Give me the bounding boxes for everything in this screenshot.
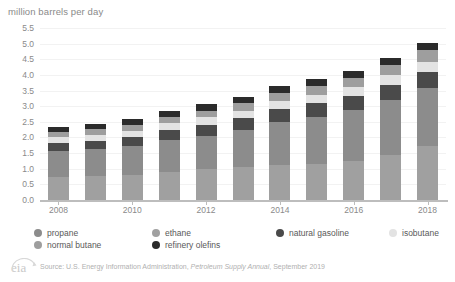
bar-segment-propane[interactable] bbox=[269, 122, 290, 165]
bar-segment-natural-gasoline[interactable] bbox=[343, 96, 364, 110]
bar-segment-propane[interactable] bbox=[380, 100, 401, 155]
bar-segment-isobutane[interactable] bbox=[380, 75, 401, 84]
bar-segment-natural-gasoline[interactable] bbox=[122, 137, 143, 146]
bar-2016[interactable] bbox=[343, 28, 364, 200]
bar-2009[interactable] bbox=[85, 28, 106, 200]
bar-segment-natural-gasoline[interactable] bbox=[196, 125, 217, 136]
legend-label: refinery olefins bbox=[165, 240, 220, 250]
bar-segment-propane[interactable] bbox=[122, 146, 143, 175]
bar-segment-isobutane[interactable] bbox=[159, 123, 180, 130]
plot-area bbox=[40, 28, 446, 200]
y-tick-label: 5.5 bbox=[22, 23, 34, 33]
bar-segment-ethane[interactable] bbox=[269, 165, 290, 200]
x-tick-label-2010: 2010 bbox=[123, 205, 142, 215]
bar-segment-natural-gasoline[interactable] bbox=[48, 143, 69, 151]
bar-segment-ethane[interactable] bbox=[122, 175, 143, 200]
bar-segment-refinery-olefins[interactable] bbox=[196, 104, 217, 110]
legend-item-refinery-olefins[interactable]: refinery olefins bbox=[152, 240, 220, 250]
bar-2008[interactable] bbox=[48, 28, 69, 200]
bar-2010[interactable] bbox=[122, 28, 143, 200]
bar-segment-ethane[interactable] bbox=[85, 176, 106, 200]
bar-segment-isobutane[interactable] bbox=[343, 87, 364, 96]
legend-item-ethane[interactable]: ethane bbox=[152, 228, 191, 238]
bar-2013[interactable] bbox=[233, 28, 254, 200]
bar-segment-normal-butane[interactable] bbox=[269, 93, 290, 101]
y-tick-label: 4.0 bbox=[22, 70, 34, 80]
bar-segment-natural-gasoline[interactable] bbox=[417, 72, 438, 88]
bar-segment-natural-gasoline[interactable] bbox=[380, 85, 401, 100]
bar-segment-refinery-olefins[interactable] bbox=[306, 79, 327, 86]
bar-segment-refinery-olefins[interactable] bbox=[417, 43, 438, 51]
bar-segment-ethane[interactable] bbox=[48, 177, 69, 200]
bar-segment-isobutane[interactable] bbox=[48, 137, 69, 143]
bar-2012[interactable] bbox=[196, 28, 217, 200]
bar-segment-propane[interactable] bbox=[85, 149, 106, 177]
bar-segment-isobutane[interactable] bbox=[306, 95, 327, 103]
bar-segment-propane[interactable] bbox=[196, 136, 217, 170]
bar-segment-ethane[interactable] bbox=[417, 146, 438, 200]
bar-segment-propane[interactable] bbox=[343, 110, 364, 161]
x-tick-label-2018: 2018 bbox=[418, 205, 437, 215]
bar-segment-natural-gasoline[interactable] bbox=[233, 118, 254, 130]
legend-label: natural gasoline bbox=[289, 228, 349, 238]
bar-segment-normal-butane[interactable] bbox=[48, 132, 69, 137]
bar-segment-refinery-olefins[interactable] bbox=[159, 111, 180, 117]
bar-segment-normal-butane[interactable] bbox=[380, 65, 401, 75]
bar-segment-ethane[interactable] bbox=[233, 167, 254, 200]
bar-segment-refinery-olefins[interactable] bbox=[343, 71, 364, 78]
bar-segment-normal-butane[interactable] bbox=[233, 103, 254, 111]
bar-segment-normal-butane[interactable] bbox=[343, 78, 364, 87]
bar-segment-ethane[interactable] bbox=[380, 155, 401, 200]
bar-segment-normal-butane[interactable] bbox=[122, 125, 143, 131]
bar-2018[interactable] bbox=[417, 28, 438, 200]
y-tick-label: 2.5 bbox=[22, 117, 34, 127]
bar-segment-isobutane[interactable] bbox=[233, 111, 254, 119]
legend-label: propane bbox=[47, 228, 78, 238]
bar-segment-ethane[interactable] bbox=[159, 172, 180, 200]
bar-segment-refinery-olefins[interactable] bbox=[380, 58, 401, 65]
bar-segment-propane[interactable] bbox=[48, 151, 69, 178]
bar-segment-natural-gasoline[interactable] bbox=[306, 103, 327, 117]
bar-segment-natural-gasoline[interactable] bbox=[159, 130, 180, 140]
bar-segment-normal-butane[interactable] bbox=[159, 117, 180, 123]
bar-segment-isobutane[interactable] bbox=[269, 101, 290, 109]
bar-segment-propane[interactable] bbox=[417, 88, 438, 146]
legend-item-normal-butane[interactable]: normal butane bbox=[34, 240, 101, 250]
bar-segment-propane[interactable] bbox=[306, 117, 327, 164]
legend-label: isobutane bbox=[402, 228, 439, 238]
bar-2011[interactable] bbox=[159, 28, 180, 200]
y-tick-label: 1.5 bbox=[22, 148, 34, 158]
bar-segment-normal-butane[interactable] bbox=[306, 86, 327, 95]
bar-segment-refinery-olefins[interactable] bbox=[269, 86, 290, 93]
legend-item-propane[interactable]: propane bbox=[34, 228, 78, 238]
bar-segment-propane[interactable] bbox=[233, 130, 254, 167]
bar-segment-natural-gasoline[interactable] bbox=[85, 141, 106, 149]
bar-segment-isobutane[interactable] bbox=[85, 135, 106, 141]
legend-item-natural-gasoline[interactable]: natural gasoline bbox=[276, 228, 349, 238]
bar-segment-isobutane[interactable] bbox=[122, 131, 143, 137]
bar-segment-refinery-olefins[interactable] bbox=[85, 124, 106, 129]
legend-swatch-icon bbox=[152, 229, 160, 237]
bar-segment-refinery-olefins[interactable] bbox=[48, 127, 69, 132]
bar-segment-normal-butane[interactable] bbox=[417, 50, 438, 62]
chart-container: million barrels per day 0.00.51.01.52.02… bbox=[0, 0, 455, 282]
bar-segment-isobutane[interactable] bbox=[196, 117, 217, 124]
bar-segment-refinery-olefins[interactable] bbox=[122, 119, 143, 125]
bar-segment-isobutane[interactable] bbox=[417, 62, 438, 72]
bar-segment-normal-butane[interactable] bbox=[85, 129, 106, 134]
bar-2015[interactable] bbox=[306, 28, 327, 200]
bar-segment-normal-butane[interactable] bbox=[196, 111, 217, 118]
bar-segment-ethane[interactable] bbox=[306, 164, 327, 200]
y-tick-label: 4.5 bbox=[22, 54, 34, 64]
y-tick-label: 3.5 bbox=[22, 86, 34, 96]
y-tick-label: 0.5 bbox=[22, 179, 34, 189]
bar-segment-ethane[interactable] bbox=[196, 169, 217, 200]
bar-segment-propane[interactable] bbox=[159, 140, 180, 172]
bar-segment-ethane[interactable] bbox=[343, 161, 364, 200]
source-note: Source: U.S. Energy Information Administ… bbox=[40, 263, 325, 270]
legend-item-isobutane[interactable]: isobutane bbox=[389, 228, 439, 238]
bar-segment-natural-gasoline[interactable] bbox=[269, 109, 290, 122]
bar-segment-refinery-olefins[interactable] bbox=[233, 97, 254, 104]
bar-2014[interactable] bbox=[269, 28, 290, 200]
bar-2017[interactable] bbox=[380, 28, 401, 200]
